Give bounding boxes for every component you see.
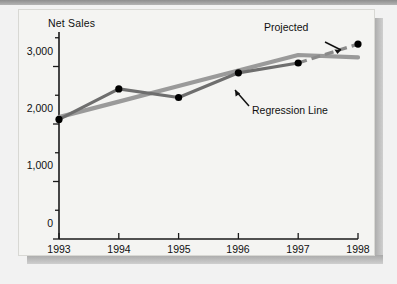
data-point-1997 bbox=[295, 59, 302, 66]
x-tick-marks bbox=[59, 233, 358, 239]
x-tick-label-1994: 1994 bbox=[98, 243, 140, 255]
x-tick-label-1998: 1998 bbox=[337, 243, 379, 255]
x-tick-label-1993: 1993 bbox=[38, 243, 80, 255]
data-point-1996 bbox=[235, 69, 242, 76]
regression-line-label: Regression Line bbox=[252, 104, 328, 116]
y-tick-label-2000: 2,000 bbox=[17, 102, 53, 114]
y-axis-title: Net Sales bbox=[48, 17, 95, 29]
axes-group bbox=[59, 32, 358, 239]
x-tick-label-1996: 1996 bbox=[217, 243, 259, 255]
chart-card: Net Sales 0 1,000 2,000 3,000 1993 1994 … bbox=[18, 9, 375, 256]
x-tick-label-1997: 1997 bbox=[277, 243, 319, 255]
y-tick-label-3000: 3,000 bbox=[17, 45, 53, 57]
chart-plot-area bbox=[19, 10, 376, 257]
chart-screenshot: Net Sales 0 1,000 2,000 3,000 1993 1994 … bbox=[0, 0, 397, 284]
projected-arrow-shaft bbox=[325, 42, 341, 50]
y-tick-label-1000: 1,000 bbox=[17, 159, 53, 171]
data-point-1994 bbox=[115, 85, 122, 92]
y-tick-label-0: 0 bbox=[17, 217, 53, 229]
projected-arrow-head bbox=[334, 49, 341, 54]
annotation-arrows bbox=[235, 42, 341, 106]
y-tick-marks bbox=[53, 38, 59, 239]
data-point-1995 bbox=[175, 94, 182, 101]
x-tick-label-1995: 1995 bbox=[158, 243, 200, 255]
data-point-projected-1998 bbox=[354, 41, 361, 48]
chart-svg bbox=[19, 10, 376, 257]
data-point-1993 bbox=[55, 116, 62, 123]
projected-label: Projected bbox=[264, 21, 308, 33]
